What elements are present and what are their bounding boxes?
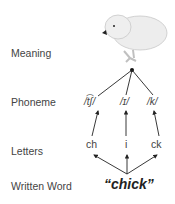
row-label-phoneme: Phoneme: [11, 96, 56, 108]
row-label-written-word: Written Word: [11, 180, 72, 192]
row-label-meaning: Meaning: [11, 47, 51, 59]
phoneme-i: /ɪ/: [120, 96, 129, 107]
letter-ch: ch: [86, 138, 97, 150]
phoneme-ch: /t͡ʃ/: [84, 96, 95, 107]
row-label-letters: Letters: [11, 145, 43, 157]
written-word: “chick”: [104, 176, 154, 192]
phoneme-k: /k/: [147, 96, 158, 107]
chick-icon: [102, 15, 167, 62]
letter-i: i: [125, 138, 127, 150]
letter-ck: ck: [151, 138, 162, 150]
